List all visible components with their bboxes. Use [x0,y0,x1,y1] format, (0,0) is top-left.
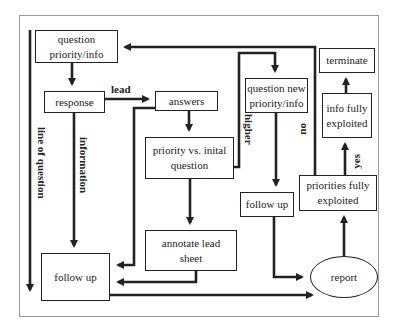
node-info-fully-exploited: info fully exploited [322,93,372,138]
node-annotate-lead-sheet: annotate lead sheet [145,230,237,271]
node-report: report [310,256,378,298]
node-follow-up-left: follow up [41,253,110,301]
node-question-new-priority-info: question new priority/info [245,78,308,113]
node-question-priority-info: question priority/info [35,30,118,63]
node-answers: answers [155,91,218,111]
label-no: no [296,123,308,135]
node-terminate: terminate [319,48,375,73]
label-information: information [78,137,90,193]
label-yes: yes [350,154,362,169]
node-response: response [44,91,105,113]
node-priorities-fully-exploited: priorities fully exploited [299,175,377,211]
label-higher: higher [243,114,255,145]
label-lead: lead [111,83,131,95]
node-follow-up-right: follow up [240,192,294,217]
node-priority-vs-initial-question: priority vs. inital question [145,137,234,179]
label-line-of-question: line of question [36,127,48,199]
